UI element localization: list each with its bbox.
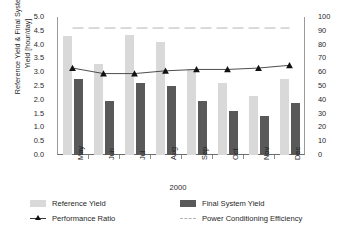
y-tick-left: 4.5	[18, 26, 44, 35]
y-tick-left: 0.5	[18, 136, 44, 145]
y-tick-left: 1.0	[18, 122, 44, 131]
y-tick-right: 60	[318, 67, 344, 76]
marker-performance-ratio	[69, 65, 76, 71]
y-tick-right: 80	[318, 40, 344, 49]
x-category-label: Aug	[169, 147, 178, 160]
x-axis-tick	[274, 155, 275, 159]
y-tick-left: 3.5	[18, 53, 44, 62]
x-category-label: Oct	[231, 149, 240, 161]
marker-performance-ratio	[286, 62, 293, 68]
legend-swatch-fin-icon	[180, 200, 196, 207]
chart-container: Reference Yield & Final System Yield [ho…	[0, 0, 356, 231]
y-tick-left: 2.0	[18, 95, 44, 104]
x-axis-tick	[243, 155, 244, 159]
y-tick-left: 2.5	[18, 81, 44, 90]
y-tick-right: 40	[318, 95, 344, 104]
x-axis-tick	[181, 155, 182, 159]
y-tick-left: 5.0	[18, 12, 44, 21]
legend-label: Power Conditioning Efficiency	[202, 214, 302, 223]
legend-label: Performance Ratio	[52, 214, 115, 223]
x-category-label: Sep	[200, 147, 209, 160]
x-axis-label: 2000	[0, 183, 356, 192]
plot-area	[57, 17, 305, 155]
x-category-label: Jul	[138, 151, 147, 160]
x-category-label: Nov	[262, 147, 271, 160]
y-tick-left: 4.0	[18, 40, 44, 49]
x-category-label: Jun	[107, 148, 116, 160]
x-axis-tick	[150, 155, 151, 159]
y-tick-right: 50	[318, 81, 344, 90]
legend-swatch-line-icon	[30, 215, 46, 222]
y-tick-left: 3.0	[18, 67, 44, 76]
x-category-label: Dec	[293, 147, 302, 160]
x-category-label: May	[76, 146, 85, 160]
y-tick-right: 30	[318, 109, 344, 118]
x-axis-tick	[212, 155, 213, 159]
y-tick-right: 90	[318, 26, 344, 35]
y-tick-right: 10	[318, 136, 344, 145]
legend-item: Final System Yield	[180, 199, 356, 208]
legend-item: Power Conditioning Efficiency	[180, 214, 356, 223]
y-tick-right: 100	[318, 12, 344, 21]
y-tick-left: 1.5	[18, 109, 44, 118]
y-tick-left: 0.0	[18, 150, 44, 159]
chart-legend: Reference YieldFinal System YieldPerform…	[30, 196, 356, 226]
y-tick-right: 70	[318, 53, 344, 62]
legend-item: Performance Ratio	[30, 214, 180, 223]
x-axis-tick	[88, 155, 89, 159]
x-axis-tick	[119, 155, 120, 159]
legend-label: Final System Yield	[202, 199, 264, 208]
legend-triangle-icon	[35, 215, 41, 220]
legend-swatch-dash-icon	[180, 215, 196, 222]
legend-label: Reference Yield	[52, 199, 106, 208]
y-tick-right: 20	[318, 122, 344, 131]
y-tick-right: 0	[318, 150, 344, 159]
legend-swatch-ref-icon	[30, 200, 46, 207]
legend-item: Reference Yield	[30, 199, 180, 208]
line-series-layer	[57, 17, 305, 155]
